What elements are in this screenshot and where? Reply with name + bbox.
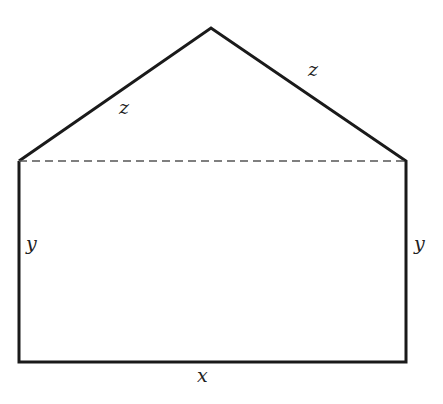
label-roof-left: z bbox=[118, 96, 130, 118]
house-outline bbox=[19, 28, 406, 362]
label-wall-left: y bbox=[25, 232, 37, 254]
label-wall-right: y bbox=[413, 232, 425, 254]
label-base: x bbox=[197, 364, 208, 386]
label-roof-right: z bbox=[307, 58, 319, 80]
house-diagram: z z y y x bbox=[0, 0, 443, 404]
